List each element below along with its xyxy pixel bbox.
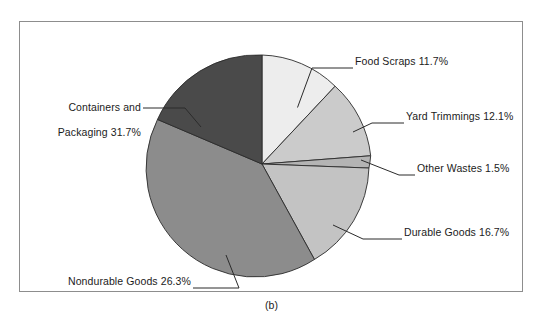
- figure-frame: Food Scraps 11.7% Yard Trimmings 12.1% O…: [19, 21, 523, 292]
- pie-label-nondurable-goods: Nondurable Goods 26.3%: [41, 275, 191, 288]
- pie-label-durable-goods: Durable Goods 16.7%: [404, 226, 509, 239]
- pie-chart: [20, 22, 524, 293]
- figure-caption: (b): [0, 299, 543, 311]
- pie-label-containers-packaging: Containers and Packaging 31.7%: [30, 88, 141, 151]
- figure-root: Food Scraps 11.7% Yard Trimmings 12.1% O…: [0, 0, 543, 328]
- pie-label-containers-packaging-line1: Containers and: [68, 101, 141, 113]
- pie-label-yard-trimmings: Yard Trimmings 12.1%: [406, 110, 513, 123]
- pie-label-containers-packaging-line2: Packaging 31.7%: [58, 126, 141, 138]
- pie-label-food-scraps: Food Scraps 11.7%: [355, 55, 448, 68]
- pie-label-other-wastes: Other Wastes 1.5%: [417, 162, 509, 175]
